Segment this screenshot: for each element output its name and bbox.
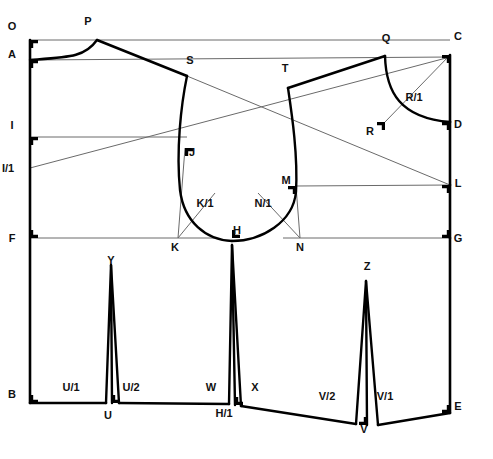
curve-dart-Z-left: [356, 281, 367, 425]
point-label-J: J: [189, 146, 195, 158]
corner-marker-B: [30, 395, 38, 403]
point-label-N/1: N/1: [254, 197, 271, 209]
point-label-O: O: [8, 20, 17, 32]
point-label-H: H: [233, 224, 241, 236]
point-label-C: C: [454, 30, 462, 42]
point-labels-layer: OPASTQCR/1RDIJI/1LMK/1N/1FKHNGYZBU/1U/2U…: [2, 15, 462, 435]
point-label-I: I: [10, 119, 13, 131]
point-label-R: R: [366, 125, 374, 137]
point-label-X: X: [251, 381, 259, 393]
point-label-U/1: U/1: [62, 381, 79, 393]
curve-armhole-right: [232, 88, 296, 241]
point-label-F: F: [9, 232, 16, 244]
construction-line-waist-line-M-to-L: [296, 185, 450, 186]
point-label-K: K: [171, 241, 179, 253]
corner-marker-E: [442, 405, 450, 413]
pattern-drafting-svg: OPASTQCR/1RDIJI/1LMK/1N/1FKHNGYZBU/1U/2U…: [0, 0, 493, 459]
point-label-V/2: V/2: [319, 390, 336, 402]
point-label-Z: Z: [364, 260, 371, 272]
pattern-diagram-canvas: OPASTQCR/1RDIJI/1LMK/1N/1FKHNGYZBU/1U/2U…: [0, 0, 493, 459]
point-label-M: M: [281, 174, 290, 186]
point-label-B: B: [8, 388, 16, 400]
point-label-H/1: H/1: [215, 407, 232, 419]
corner-marker-F: [30, 230, 38, 238]
point-label-V: V: [360, 423, 368, 435]
point-label-Q: Q: [382, 32, 391, 44]
point-label-K/1: K/1: [196, 197, 213, 209]
point-label-G: G: [454, 232, 463, 244]
corner-marker-D: [442, 122, 450, 130]
corner-marker-A: [30, 60, 38, 68]
point-label-P: P: [84, 15, 91, 27]
point-label-L: L: [455, 177, 462, 189]
corner-marker-R: [377, 122, 385, 130]
point-label-V/1: V/1: [377, 390, 394, 402]
outline-hem-H1-to-V2: [241, 406, 356, 424]
outline-hem-U-to-H1: [119, 403, 229, 404]
point-label-I/1: I/1: [2, 162, 14, 174]
construction-line-diag-R-to-C: [385, 55, 450, 122]
curve-neckline-A-to-P: [30, 40, 97, 60]
point-label-N: N: [296, 241, 304, 253]
point-label-W: W: [206, 381, 217, 393]
point-label-U: U: [104, 409, 112, 421]
point-label-E: E: [454, 400, 461, 412]
corner-marker-G: [442, 230, 450, 238]
point-label-T: T: [282, 62, 289, 74]
outline-shoulder-P-to-S: [97, 40, 187, 76]
outline-hem-V-to-E: [378, 413, 450, 425]
corner-marker-O: [30, 40, 38, 48]
corner-marker-L: [442, 185, 450, 193]
point-label-Y: Y: [107, 254, 115, 266]
point-label-U/2: U/2: [122, 381, 139, 393]
outline-shoulder-Q-to-T: [288, 56, 385, 88]
construction-line-chest-line-A-to-C: [30, 57, 450, 60]
point-label-R/1: R/1: [405, 91, 422, 103]
point-label-A: A: [8, 48, 16, 60]
curve-armhole-left: [179, 76, 232, 241]
point-label-D: D: [454, 118, 462, 130]
corner-marker-M: [288, 186, 296, 194]
point-label-S: S: [186, 54, 193, 66]
corner-marker-I: [30, 137, 38, 145]
